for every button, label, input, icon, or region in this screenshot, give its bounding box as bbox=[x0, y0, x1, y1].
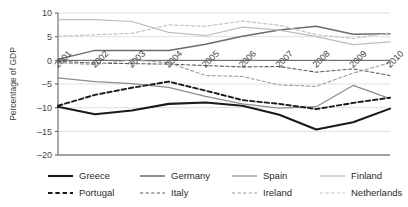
y-tick-label: 10 bbox=[42, 8, 52, 18]
y-tick-label: 5 bbox=[47, 32, 52, 42]
legend-label-ireland: Ireland bbox=[263, 187, 292, 198]
x-tick-label: 2007 bbox=[274, 49, 295, 70]
legend-item-germany[interactable]: Germany bbox=[140, 170, 210, 181]
legend-label-italy: Italy bbox=[171, 187, 189, 198]
series-line-greece bbox=[58, 102, 390, 129]
legend-item-greece[interactable]: Greece bbox=[48, 170, 110, 181]
x-tick-label: 2001 bbox=[52, 49, 73, 70]
line-chart: 1050–5–10–15–20 200120022003200420052006… bbox=[0, 0, 408, 207]
y-tick-label: 0 bbox=[47, 56, 52, 66]
series-line-netherlands bbox=[58, 21, 390, 39]
legend-label-netherlands: Netherlands bbox=[351, 187, 402, 198]
y-tick-label: –10 bbox=[37, 103, 52, 113]
chart-legend: GreeceGermanySpainFinlandPortugalItalyIr… bbox=[48, 170, 402, 198]
legend-item-portugal[interactable]: Portugal bbox=[48, 187, 114, 198]
legend-item-spain[interactable]: Spain bbox=[232, 170, 287, 181]
x-tick-label: 2010 bbox=[384, 49, 405, 70]
legend-label-greece: Greece bbox=[79, 170, 110, 181]
y-axis-tick-labels: 1050–5–10–15–20 bbox=[37, 8, 52, 160]
legend-label-portugal: Portugal bbox=[79, 187, 114, 198]
legend-item-ireland[interactable]: Ireland bbox=[232, 187, 292, 198]
legend-item-finland[interactable]: Finland bbox=[320, 170, 382, 181]
legend-label-finland: Finland bbox=[351, 170, 382, 181]
x-tick-label: 2009 bbox=[347, 49, 368, 70]
x-tick-label: 2008 bbox=[311, 49, 332, 70]
x-tick-label: 2003 bbox=[126, 49, 147, 70]
chart-container: 1050–5–10–15–20 200120022003200420052006… bbox=[0, 0, 408, 207]
y-tick-label: –5 bbox=[42, 79, 52, 89]
legend-label-germany: Germany bbox=[171, 170, 210, 181]
data-series-group bbox=[58, 20, 390, 130]
y-tick-label: –15 bbox=[37, 127, 52, 137]
y-axis-title: Percentage of GDP bbox=[8, 47, 18, 121]
legend-label-spain: Spain bbox=[263, 170, 287, 181]
series-line-italy bbox=[58, 61, 390, 75]
legend-item-italy[interactable]: Italy bbox=[140, 187, 189, 198]
legend-item-netherlands[interactable]: Netherlands bbox=[320, 187, 402, 198]
y-tick-label: –20 bbox=[37, 150, 52, 160]
